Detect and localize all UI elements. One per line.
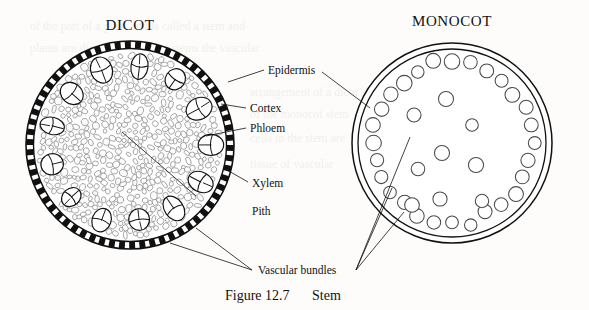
monocot-panel: MONOCOT (352, 13, 552, 243)
leader-vascular-dicot-b (170, 243, 252, 270)
label-phloem: Phloem (250, 122, 285, 134)
label-cortex: Cortex (250, 102, 282, 114)
leader-vascular-dicot-a (196, 228, 252, 270)
dicot-vascular-bundle (198, 134, 223, 155)
caption-title: Stem (312, 288, 341, 303)
leader-epidermis-dicot (228, 70, 264, 82)
leader-xylem (227, 170, 248, 182)
label-epidermis: Epidermis (268, 64, 316, 77)
monocot-epidermis-outer-circle (352, 43, 552, 243)
figure-caption: Figure 12.7 Stem (225, 288, 341, 303)
monocot-title: MONOCOT (412, 13, 492, 29)
label-vascular-bundles: Vascular bundles (258, 264, 337, 276)
leader-vascular-monocot-c (356, 212, 404, 270)
label-xylem: Xylem (252, 177, 283, 190)
stem-cross-section-figure: of the part of a plant and is called a s… (0, 0, 589, 310)
caption-number: Figure 12.7 (225, 288, 290, 303)
figure-canvas: of the part of a plant and is called a s… (0, 0, 589, 310)
label-pith: Pith (252, 205, 271, 217)
dicot-title: DICOT (106, 17, 155, 33)
svg-text:tissue of vascular: tissue of vascular (250, 157, 333, 171)
